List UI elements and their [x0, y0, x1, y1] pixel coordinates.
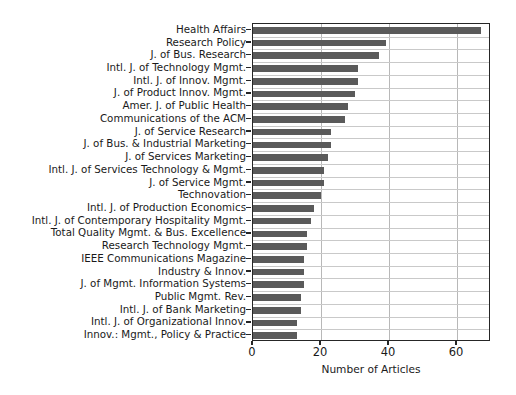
bar-chart-figure: Health AffairsResearch PolicyJ. of Bus. …	[0, 0, 516, 395]
y-tick-mark	[246, 80, 251, 81]
bar	[253, 103, 348, 110]
y-gridline	[253, 151, 489, 152]
category-label: Intl. J. of Contemporary Hospitality Mgm…	[32, 215, 246, 226]
y-tick-mark	[246, 309, 251, 310]
y-gridline	[253, 278, 489, 279]
y-gridline	[253, 266, 489, 267]
bar	[253, 142, 331, 149]
y-gridline	[253, 62, 489, 63]
y-gridline	[253, 100, 489, 101]
y-gridline	[253, 164, 489, 165]
category-label: Research Technology Mgmt.	[102, 240, 246, 251]
bar	[253, 192, 321, 199]
x-gridline	[457, 24, 458, 340]
y-gridline	[253, 138, 489, 139]
y-gridline	[253, 202, 489, 203]
y-tick-mark	[246, 29, 251, 30]
bar	[253, 205, 314, 212]
category-label: Public Mgmt. Rev.	[155, 291, 246, 302]
y-tick-mark	[246, 258, 251, 259]
y-gridline	[253, 291, 489, 292]
bar	[253, 332, 297, 339]
y-gridline	[253, 317, 489, 318]
y-tick-mark	[246, 220, 251, 221]
category-label: Intl. J. of Organizational Innov.	[91, 316, 246, 327]
bar	[253, 78, 358, 85]
category-label: Intl. J. of Production Economics	[87, 202, 246, 213]
category-label: IEEE Communications Magazine	[81, 253, 246, 264]
category-label: Communications of the ACM	[100, 113, 246, 124]
category-label: J. of Service Mgmt.	[149, 177, 246, 188]
category-label: Intl. J. of Services Technology & Mgmt.	[49, 164, 247, 175]
x-axis-title: Number of Articles	[252, 363, 490, 375]
category-axis-labels: Health AffairsResearch PolicyJ. of Bus. …	[0, 23, 246, 341]
bar	[253, 243, 307, 250]
bar	[253, 218, 311, 225]
category-label: J. of Services Marketing	[125, 151, 246, 162]
y-gridline	[253, 88, 489, 89]
y-tick-mark	[246, 156, 251, 157]
x-gridline	[389, 24, 390, 340]
y-gridline	[253, 304, 489, 305]
bar	[253, 91, 355, 98]
y-tick-mark	[246, 207, 251, 208]
y-tick-mark	[246, 270, 251, 271]
y-gridline	[253, 75, 489, 76]
y-tick-mark	[246, 334, 251, 335]
category-label: Technovation	[178, 189, 246, 200]
bar	[253, 320, 297, 327]
category-label: J. of Bus. & Industrial Marketing	[84, 138, 246, 149]
y-gridline	[253, 49, 489, 50]
bar	[253, 167, 324, 174]
y-gridline	[253, 177, 489, 178]
bar	[253, 154, 328, 161]
category-label: Total Quality Mgmt. & Bus. Excellence	[51, 227, 246, 238]
category-label: Innov.: Mgmt., Policy & Practice	[84, 329, 246, 340]
category-label: Health Affairs	[176, 24, 246, 35]
category-label: Amer. J. of Public Health	[122, 100, 246, 111]
category-label: Research Policy	[166, 37, 246, 48]
bar	[253, 180, 324, 187]
y-tick-mark	[246, 92, 251, 93]
y-gridline	[253, 37, 489, 38]
bar	[253, 294, 301, 301]
y-gridline	[253, 253, 489, 254]
category-label: J. of Service Research	[135, 126, 246, 137]
category-label: Intl. J. of Innov. Mgmt.	[133, 75, 246, 86]
y-tick-mark	[246, 105, 251, 106]
y-tick-mark	[246, 232, 251, 233]
category-label: Intl. J. of Technology Mgmt.	[106, 62, 246, 73]
y-tick-mark	[246, 296, 251, 297]
y-gridline	[253, 113, 489, 114]
x-tick-label: 0	[232, 346, 272, 359]
bar	[253, 40, 386, 47]
y-tick-mark	[246, 41, 251, 42]
category-label: J. of Bus. Research	[150, 49, 246, 60]
x-tick-label: 40	[368, 346, 408, 359]
bar	[253, 27, 481, 34]
bar	[253, 231, 307, 238]
y-tick-mark	[246, 245, 251, 246]
bar	[253, 281, 304, 288]
y-tick-mark	[246, 130, 251, 131]
y-tick-mark	[246, 169, 251, 170]
y-tick-mark	[246, 67, 251, 68]
category-label: Industry & Innov.	[158, 266, 246, 277]
y-gridline	[253, 240, 489, 241]
category-label: Intl. J. of Bank Marketing	[120, 304, 246, 315]
y-tick-mark	[246, 283, 251, 284]
x-tick-label: 60	[436, 346, 476, 359]
y-tick-mark	[246, 194, 251, 195]
y-tick-mark	[246, 181, 251, 182]
x-tick-label: 20	[300, 346, 340, 359]
y-tick-mark	[246, 54, 251, 55]
y-tick-mark	[246, 118, 251, 119]
plot-area	[252, 23, 490, 341]
bar	[253, 52, 379, 59]
y-gridline	[253, 126, 489, 127]
bar	[253, 307, 301, 314]
y-gridline	[253, 189, 489, 190]
category-label: J. of Mgmt. Information Systems	[81, 278, 246, 289]
bar	[253, 256, 304, 263]
bar	[253, 269, 304, 276]
